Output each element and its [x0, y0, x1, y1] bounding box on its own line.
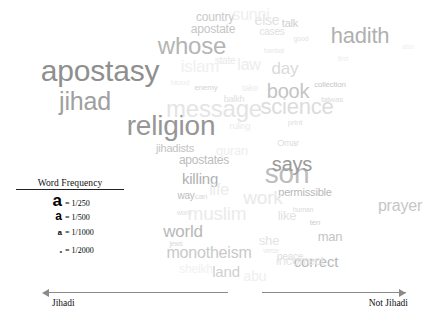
cloud-word: incorrect [276, 254, 324, 267]
cloud-word: message [166, 97, 262, 121]
cloud-word: collection [314, 81, 345, 89]
cloud-word: verse [263, 247, 279, 254]
cloud-word: take [242, 84, 258, 93]
cloud-word: monotheism [166, 245, 251, 261]
cloud-word: good [294, 35, 309, 42]
cloud-word: quran [216, 144, 248, 157]
cloud-word: country [196, 11, 234, 23]
cloud-word: permissible [278, 187, 331, 198]
cloud-word: world [163, 223, 203, 240]
cloud-word: cases [259, 27, 284, 37]
cloud-word: blood [171, 79, 190, 87]
legend: Word Frequency a= 1/250a= 1/500a= 1/1000… [16, 178, 124, 262]
legend-size-sample: a [16, 210, 62, 222]
legend-frequency-value: = 1/250 [65, 199, 90, 208]
cloud-word: first [338, 55, 348, 62]
cloud-word: jihad [59, 89, 111, 114]
cloud-word: way [177, 191, 194, 201]
word-cloud-figure: apostasyreligionjihadwhosehadithsonsaysb… [0, 0, 440, 313]
cloud-word: enemy [194, 84, 217, 92]
legend-size-sample: a [16, 192, 62, 209]
cloud-word: abu [244, 269, 267, 283]
cloud-word: work [243, 188, 282, 207]
cloud-word: man [318, 230, 343, 243]
continuum-axis: Jihadi Not Jihadi [0, 284, 440, 313]
legend-frequency-value: = 1/2000 [65, 246, 94, 255]
axis-line-right [262, 292, 406, 293]
cloud-word: like [278, 209, 297, 222]
legend-size-sample: a [16, 229, 62, 237]
cloud-word: balkh [224, 95, 245, 104]
cloud-word: sunni [232, 7, 269, 23]
axis-line-left [48, 292, 228, 293]
axis-label-jihadi: Jihadi [52, 298, 75, 308]
cloud-word: hanbal [264, 47, 284, 54]
cloud-word: prayer [378, 198, 422, 214]
arrow-right-icon [399, 289, 406, 297]
cloud-word: ten [310, 219, 321, 227]
legend-rows: a= 1/250a= 1/500a= 1/1000a= 1/2000 [16, 192, 124, 262]
cloud-word: can [195, 193, 207, 201]
cloud-word: jews [169, 240, 182, 247]
cloud-word: apostasy [41, 56, 159, 86]
cloud-word: ruling [230, 122, 251, 131]
legend-size-sample: a [16, 250, 62, 254]
legend-frequency-value: = 1/500 [65, 213, 90, 222]
cloud-word: muslim [188, 204, 247, 223]
arrow-left-icon [42, 289, 49, 297]
cloud-word: law [237, 57, 260, 73]
cloud-word: says [272, 154, 312, 174]
legend-title: Word Frequency [16, 178, 124, 190]
legend-row: a= 1/250 [16, 192, 124, 208]
cloud-word: apostate [191, 23, 235, 35]
cloud-word: fatwas [321, 96, 343, 104]
cloud-word: print [288, 119, 303, 127]
legend-row: a= 1/2000 [16, 246, 124, 262]
cloud-word: Omar [277, 139, 299, 148]
cloud-word: hadith [331, 25, 390, 47]
cloud-word: also [402, 43, 414, 50]
cloud-word: she [259, 234, 279, 247]
cloud-word: day [272, 60, 299, 77]
legend-row: a= 1/1000 [16, 228, 124, 244]
cloud-word: jihadists [156, 143, 194, 154]
cloud-word: life [209, 182, 229, 198]
cloud-word: land [212, 264, 240, 279]
cloud-word: islam [181, 58, 220, 75]
legend-frequency-value: = 1/1000 [65, 228, 94, 237]
legend-row: a= 1/500 [16, 210, 124, 226]
cloud-word: sheikh [179, 263, 213, 275]
axis-label-not-jihadi: Not Jihadi [369, 298, 408, 308]
